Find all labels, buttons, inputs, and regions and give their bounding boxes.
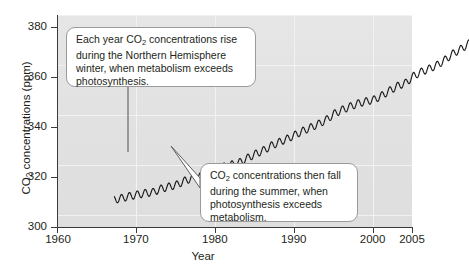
y-axis-title-suffix: concentrations (ppm)	[20, 61, 32, 172]
gridline-y-380	[57, 15, 412, 16]
x-axis-title: Year	[0, 250, 438, 262]
y-axis-title: CO2 concentrations (ppm)	[20, 38, 34, 218]
y-axis-line	[57, 15, 58, 228]
x-tick-label-1960: 1960	[45, 234, 71, 246]
x-axis-line	[57, 227, 413, 228]
annotation-fall-callout: CO2 concentrations then fall during the …	[200, 163, 358, 222]
annotation-rise-callout: Each year CO2 concentrations rise during…	[66, 27, 256, 87]
x-axis-title-text: Year	[191, 250, 214, 262]
annotation-fall-after: concentrations then fall during the summ…	[210, 169, 341, 223]
annotation-rise-before: Each year CO	[76, 33, 142, 45]
x-tick-label-2005: 2005	[399, 234, 425, 246]
annotation-fall-text: CO2 concentrations then fall during the …	[210, 169, 349, 224]
x-tick-label-1990: 1990	[281, 234, 307, 246]
x-tick-label-1970: 1970	[123, 234, 149, 246]
y-axis-title-subscript: 2	[25, 173, 34, 178]
x-tick-label-1980: 1980	[202, 234, 228, 246]
y-tick-360	[51, 77, 57, 78]
y-tick-340	[51, 127, 57, 128]
y-tick-320	[51, 177, 57, 178]
y-axis-title-prefix: CO	[20, 177, 32, 194]
annotation-rise-text: Each year CO2 concentrations rise during…	[76, 33, 247, 88]
y-tick-380	[51, 27, 57, 28]
annotation-fall-before: CO	[210, 169, 226, 181]
x-tick-label-2000: 2000	[360, 234, 386, 246]
y-tick-label-300: 300	[28, 221, 47, 233]
y-tick-label-380: 380	[28, 22, 47, 34]
